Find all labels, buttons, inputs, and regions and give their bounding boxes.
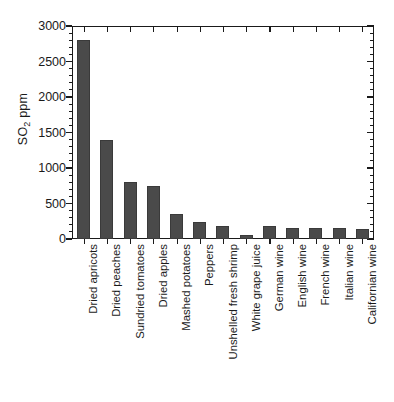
x-axis-category-labels: Dried apricotsDried peachesSundried toma… <box>72 244 374 394</box>
x-axis-category-label: Unshelled fresh shrimp <box>228 244 239 360</box>
y-axis-tick-label: 1000 <box>2 162 66 175</box>
bar <box>147 186 160 239</box>
x-axis-category-label: English wine <box>297 244 308 307</box>
y-axis-tick-label: 2500 <box>2 55 66 68</box>
bar <box>170 214 183 239</box>
bar <box>240 235 253 239</box>
x-axis-category-label: Dried apples <box>158 244 169 307</box>
bar <box>309 228 322 239</box>
x-axis-category-label: White grape juice <box>251 244 262 331</box>
x-axis-category-label: Dried apricots <box>88 244 99 314</box>
x-axis-category-label: Dried peaches <box>111 244 122 317</box>
bar <box>193 222 206 239</box>
bar <box>77 40 90 239</box>
x-axis-category-label: Peppers <box>204 244 215 286</box>
x-axis-category-label: Italian wine <box>344 244 355 301</box>
bar <box>263 226 276 239</box>
y-axis-tick-label: 0 <box>2 233 66 246</box>
y-axis-tick-label: 2000 <box>2 91 66 104</box>
bar <box>356 229 369 239</box>
x-axis-category-label: Sundried tomatoes <box>135 244 146 339</box>
bar-series <box>72 26 374 239</box>
x-axis-category-label: German wine <box>274 244 285 311</box>
y-axis-tick-label: 500 <box>2 197 66 210</box>
x-axis-category-label: French wine <box>320 244 331 306</box>
bar <box>124 182 137 239</box>
bar <box>216 226 229 239</box>
bar <box>286 228 299 239</box>
chart-figure: SO2 ppm 050010001500200025003000 Dried a… <box>0 0 394 402</box>
x-axis-category-label: Mashed potatoes <box>181 244 192 331</box>
x-axis-category-label: Californian wine <box>367 244 378 324</box>
y-axis-tick-label: 3000 <box>2 20 66 33</box>
y-axis-tick-label: 1500 <box>2 126 66 139</box>
bar <box>333 228 346 239</box>
bar <box>100 140 113 239</box>
